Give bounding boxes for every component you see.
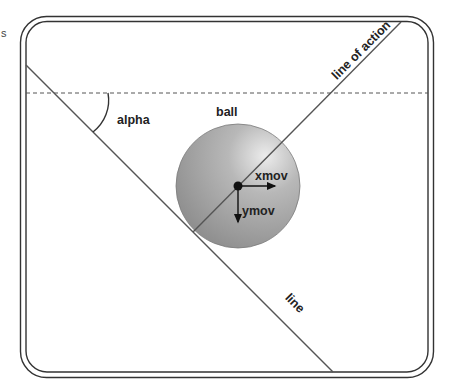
line-of-action-label: line of action xyxy=(329,18,393,82)
alpha-arc xyxy=(93,93,109,132)
ball-center-dot xyxy=(234,182,243,191)
ball-label: ball xyxy=(216,105,238,119)
line-label: line xyxy=(282,291,307,316)
alpha-label: alpha xyxy=(117,113,151,127)
ymov-label: ymov xyxy=(242,204,275,218)
xmov-label: xmov xyxy=(255,169,288,183)
diagram: alpha ball xmov ymov line line of action xyxy=(0,0,450,390)
